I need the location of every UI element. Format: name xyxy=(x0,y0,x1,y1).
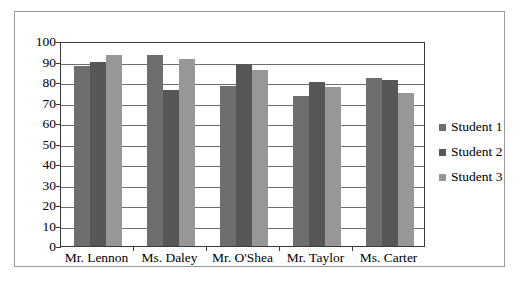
y-axis-tick-mark xyxy=(56,165,61,166)
bar xyxy=(147,55,163,246)
bar xyxy=(366,78,382,246)
y-axis-tick-label: 90 xyxy=(18,56,56,70)
x-axis-tick-mark xyxy=(206,247,207,251)
legend-label: Student 2 xyxy=(451,145,502,159)
bar xyxy=(252,70,268,246)
y-axis-tick-label: 60 xyxy=(18,117,56,131)
y-axis-tick-label: 20 xyxy=(18,199,56,213)
bar xyxy=(398,93,414,246)
bar xyxy=(163,90,179,246)
x-axis-tick-label: Mr. Lennon xyxy=(65,250,129,266)
chart-legend: Student 1Student 2Student 3 xyxy=(439,120,513,195)
legend-swatch-icon xyxy=(439,174,446,181)
x-axis-tick-label: Ms. Daley xyxy=(141,250,197,266)
x-axis-tick-label: Ms. Carter xyxy=(360,250,418,266)
bar xyxy=(179,59,195,246)
bar xyxy=(309,82,325,246)
y-axis-tick-mark xyxy=(56,63,61,64)
chart-figure: 1009080706050403020100 Mr. LennonMs. Dal… xyxy=(0,0,522,281)
x-axis-tick-mark xyxy=(133,247,134,251)
y-axis-tick-mark xyxy=(56,145,61,146)
y-axis-tick-mark xyxy=(56,83,61,84)
bar-group xyxy=(74,43,122,246)
x-axis-tick-mark xyxy=(352,247,353,251)
y-axis-tick-label: 40 xyxy=(18,158,56,172)
bar-group xyxy=(366,43,414,246)
y-axis-tick-mark xyxy=(56,247,61,248)
plot-area xyxy=(60,42,425,247)
y-axis-tick-label: 30 xyxy=(18,179,56,193)
legend-item: Student 1 xyxy=(439,120,513,134)
y-axis-tick-mark xyxy=(56,206,61,207)
bar-group xyxy=(220,43,268,246)
bar-group xyxy=(293,43,341,246)
bar-group xyxy=(147,43,195,246)
y-axis-tick-mark xyxy=(56,42,61,43)
y-axis: 1009080706050403020100 xyxy=(15,42,56,247)
y-axis-tick-label: 0 xyxy=(18,240,56,254)
bar xyxy=(220,86,236,246)
legend-swatch-icon xyxy=(439,124,446,131)
y-axis-tick-label: 100 xyxy=(18,35,56,49)
x-axis-tick-label: Mr. Taylor xyxy=(287,250,344,266)
y-axis-tick-label: 70 xyxy=(18,97,56,111)
bar xyxy=(382,80,398,246)
bar xyxy=(90,62,106,247)
y-axis-tick-label: 80 xyxy=(18,76,56,90)
x-axis-tick-label: Mr. O'Shea xyxy=(212,250,273,266)
y-axis-tick-mark xyxy=(56,104,61,105)
y-axis-tick-mark xyxy=(56,227,61,228)
legend-item: Student 3 xyxy=(439,170,513,184)
x-axis-tick-mark xyxy=(279,247,280,251)
y-axis-tick-label: 10 xyxy=(18,220,56,234)
legend-label: Student 3 xyxy=(451,170,502,184)
y-axis-tick-label: 50 xyxy=(18,138,56,152)
legend-swatch-icon xyxy=(439,149,446,156)
legend-label: Student 1 xyxy=(451,120,502,134)
legend-item: Student 2 xyxy=(439,145,513,159)
x-axis: Mr. LennonMs. DaleyMr. O'SheaMr. TaylorM… xyxy=(60,250,425,270)
bar xyxy=(236,64,252,246)
bar xyxy=(106,55,122,246)
bar xyxy=(293,96,309,246)
bar xyxy=(325,87,341,246)
bar xyxy=(74,66,90,246)
chart-outer-frame: 1009080706050403020100 Mr. LennonMs. Dal… xyxy=(14,11,505,267)
bars-layer xyxy=(61,43,424,246)
y-axis-tick-mark xyxy=(56,186,61,187)
y-axis-tick-mark xyxy=(56,124,61,125)
